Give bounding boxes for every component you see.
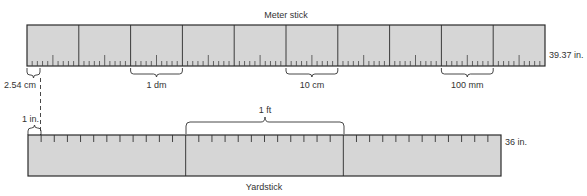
meter-stick-title: Meter stick xyxy=(264,10,308,20)
meter-stick-length-label: 39.37 in. xyxy=(549,50,584,60)
brace-icon xyxy=(131,68,183,77)
yardstick-title: Yardstick xyxy=(246,182,283,192)
foot-bracket-label: 1 ft xyxy=(259,105,272,115)
inch-bracket-label: 1 in. xyxy=(22,114,39,124)
bracket-label: 1 dm xyxy=(146,80,166,90)
brace-icon xyxy=(441,68,493,77)
foot-bracket-icon xyxy=(186,117,344,134)
cm-bracket-label: 2.54 cm xyxy=(4,80,36,90)
meter-stick-brackets: 1 dm10 cm100 mm xyxy=(131,68,494,90)
yardstick-length-label: 36 in. xyxy=(505,137,527,147)
inch-bracket-icon xyxy=(28,125,41,135)
cm-bracket-icon xyxy=(27,68,40,78)
yardstick xyxy=(28,135,501,176)
brace-icon xyxy=(286,68,338,77)
inch-cm-equivalence: 2.54 cm 1 in. xyxy=(4,68,41,136)
bracket-label: 10 cm xyxy=(300,80,325,90)
meter-stick xyxy=(27,25,545,66)
bracket-label: 100 mm xyxy=(451,80,484,90)
meter-yardstick-diagram: Meter stick 39.37 in. 1 dm10 cm100 mm 2.… xyxy=(0,0,587,196)
foot-bracket: 1 ft xyxy=(186,105,344,134)
